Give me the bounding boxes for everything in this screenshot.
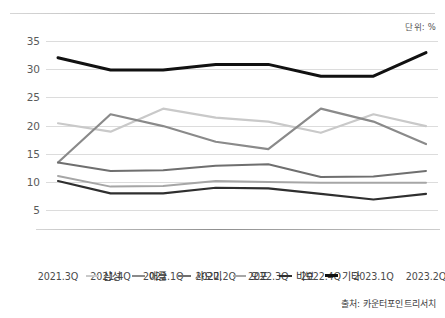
legend-item[interactable]: 오포: [233, 268, 268, 283]
legend-item[interactable]: 애플: [132, 268, 167, 283]
y-tick-label: 20: [27, 120, 40, 132]
x-axis-line: [36, 229, 440, 230]
header-divider: [10, 13, 435, 14]
series-line: [58, 181, 426, 200]
legend-label: 기타: [342, 268, 360, 283]
legend-label: 삼성: [103, 268, 121, 283]
y-tick-label: 35: [27, 35, 40, 47]
series-line: [58, 109, 426, 163]
y-tick-label: 25: [27, 91, 40, 103]
unit-note: 단위: %: [405, 20, 436, 32]
legend-line-icon: [325, 274, 338, 277]
legend-label: 애플: [149, 268, 167, 283]
legend-item[interactable]: 비보: [279, 268, 314, 283]
y-tick-label: 10: [27, 176, 40, 188]
y-axis: 5101520253035: [0, 33, 46, 218]
series-line: [58, 53, 426, 77]
legend-line-icon: [178, 275, 191, 277]
legend-line-icon: [132, 275, 145, 277]
legend-item[interactable]: 기타: [325, 268, 360, 283]
chart-screenshot: 단위: % 5101520253035 2021.3Q2021.4Q2022.1…: [0, 0, 445, 318]
legend-item[interactable]: 샤오미: [178, 268, 222, 283]
series-layer: [46, 33, 438, 218]
y-tick-label: 30: [27, 63, 40, 75]
y-tick-label: 5: [33, 204, 40, 216]
legend-label: 샤오미: [195, 268, 222, 283]
legend-label: 오포: [250, 268, 268, 283]
series-line: [58, 176, 426, 187]
source-note: 출처: 카운터포인트리서치: [341, 297, 436, 310]
plot-area: 5101520253035 2021.3Q2021.4Q2022.1Q2022.…: [0, 33, 445, 233]
legend-item[interactable]: 삼성: [86, 268, 121, 283]
legend-label: 비보: [296, 268, 314, 283]
series-line: [58, 163, 426, 178]
legend: 삼성애플샤오미오포비보기타: [0, 268, 445, 283]
legend-line-icon: [86, 275, 99, 277]
y-tick-label: 15: [27, 148, 40, 160]
legend-line-icon: [279, 275, 292, 277]
legend-line-icon: [233, 275, 246, 277]
